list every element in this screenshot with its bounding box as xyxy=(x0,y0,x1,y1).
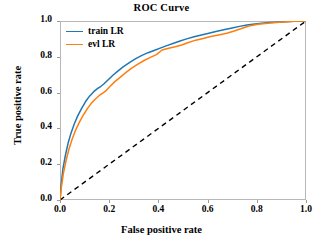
x-tick-label: 1.0 xyxy=(289,204,323,214)
legend-item-evl-lr: evl LR xyxy=(66,39,124,49)
y-tick-label: 0.4 xyxy=(18,121,52,131)
y-tick-mark xyxy=(57,21,60,22)
legend: train LR evl LR xyxy=(66,26,124,49)
y-tick-mark xyxy=(57,93,60,94)
legend-label-train-lr: train LR xyxy=(88,26,124,36)
x-tick-mark xyxy=(109,200,110,203)
y-tick-mark xyxy=(57,200,60,201)
y-tick-label: 0.0 xyxy=(18,193,52,203)
x-tick-mark xyxy=(257,200,258,203)
legend-color-swatch-train-lr xyxy=(66,31,83,32)
roc-curve-figure: ROC Curve train LR evl LR False positive… xyxy=(0,0,323,250)
y-tick-mark xyxy=(57,164,60,165)
page-title: ROC Curve xyxy=(0,2,323,13)
y-tick-mark xyxy=(57,128,60,129)
y-tick-mark xyxy=(57,57,60,58)
y-tick-label: 1.0 xyxy=(18,14,52,24)
x-tick-mark xyxy=(306,200,307,203)
x-tick-label: 0.2 xyxy=(92,204,126,214)
legend-color-swatch-evl-lr xyxy=(66,44,83,45)
x-tick-mark xyxy=(158,200,159,203)
x-tick-label: 0.6 xyxy=(191,204,225,214)
y-tick-label: 0.8 xyxy=(18,50,52,60)
x-tick-mark xyxy=(60,200,61,203)
x-tick-label: 0.0 xyxy=(43,204,77,214)
x-tick-mark xyxy=(208,200,209,203)
y-tick-label: 0.6 xyxy=(18,86,52,96)
legend-label-evl-lr: evl LR xyxy=(88,39,115,49)
y-tick-label: 0.2 xyxy=(18,157,52,167)
x-axis-label: False positive rate xyxy=(0,224,323,235)
legend-item-train-lr: train LR xyxy=(66,26,124,36)
x-tick-label: 0.4 xyxy=(141,204,175,214)
plot-area: train LR evl LR xyxy=(60,21,306,200)
x-tick-label: 0.8 xyxy=(240,204,274,214)
